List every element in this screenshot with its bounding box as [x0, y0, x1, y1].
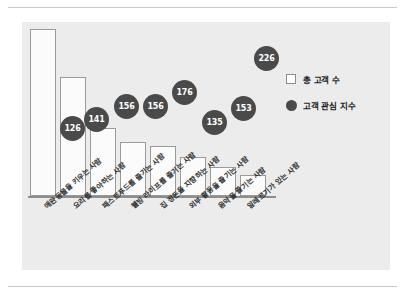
bar-3[interactable] [120, 142, 146, 196]
bar-2[interactable] [90, 128, 116, 196]
legend-square-icon [286, 74, 296, 84]
bar-5[interactable] [180, 157, 206, 196]
chart-panel: 126141156156176135153226 애완동물을 키우는 사람요리를… [22, 22, 390, 270]
bar-7[interactable] [240, 175, 266, 196]
legend-item-interest-index[interactable]: 고객 관심 지수 [286, 96, 386, 114]
bubble-value-1[interactable]: 141 [84, 107, 109, 132]
x-axis-line [28, 196, 276, 198]
bubble-value-6[interactable]: 153 [231, 96, 256, 121]
bubble-value-7[interactable]: 226 [254, 46, 279, 71]
bubble-value-5[interactable]: 135 [202, 110, 227, 135]
page-canvas: 126141156156176135153226 애완동물을 키우는 사람요리를… [0, 0, 405, 299]
chart-legend: 총 고객 수 고객 관심 지수 [286, 70, 386, 122]
legend-item-label: 고객 관심 지수 [303, 99, 355, 111]
legend-circle-icon [286, 100, 297, 111]
legend-item-total-customers[interactable]: 총 고객 수 [286, 70, 386, 88]
bubble-value-2[interactable]: 156 [114, 94, 139, 119]
bubble-value-3[interactable]: 156 [143, 94, 168, 119]
top-divider-rule [8, 7, 397, 8]
bar-0[interactable] [30, 29, 56, 196]
bar-4[interactable] [150, 146, 176, 196]
bubble-value-0[interactable]: 126 [60, 116, 85, 141]
legend-item-label: 총 고객 수 [303, 73, 340, 85]
bottom-divider-rule [8, 286, 397, 287]
bar-6[interactable] [210, 167, 236, 196]
bubble-value-4[interactable]: 176 [172, 80, 197, 105]
